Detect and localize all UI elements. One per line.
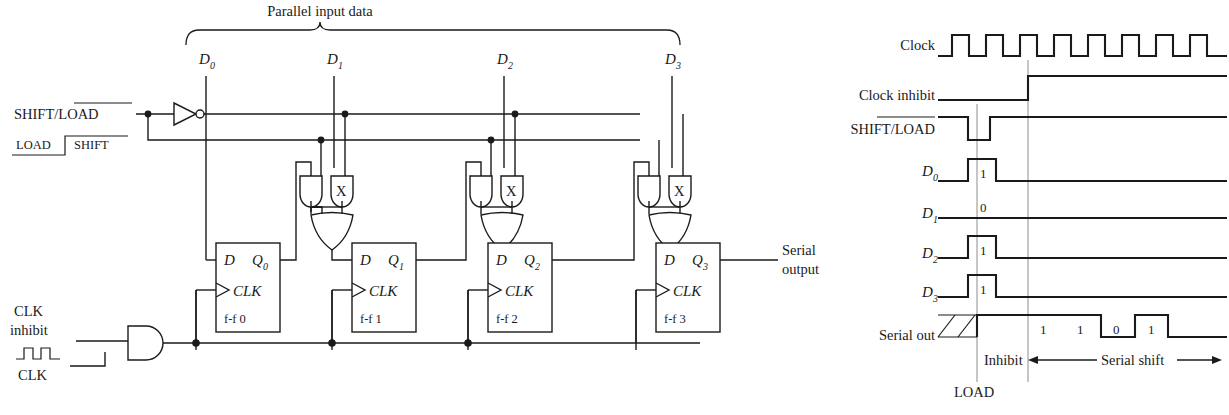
junction-dot-shift-1 <box>318 137 325 144</box>
mode-legend-load-label: LOAD <box>16 138 51 152</box>
timing-value-D3: 1 <box>980 282 987 297</box>
timing-label-D1-name: D <box>921 205 933 221</box>
flipflop-1-name: f-f 1 <box>360 312 382 326</box>
inverter-triangle <box>174 103 196 125</box>
timing-waveform-clock <box>938 35 1227 56</box>
flipflop-2-q-sub: 2 <box>535 261 540 272</box>
timing-label-D2-name: D <box>921 245 933 261</box>
timing-label-shift-load: SHIFT/LOAD <box>850 117 935 137</box>
flipflop-1-q-label: Q <box>388 252 399 268</box>
timing-value-D0: 1 <box>980 166 987 181</box>
timing-label-D1-sub: 1 <box>933 214 938 225</box>
flipflop-2-q-label: Q <box>524 252 535 268</box>
serial-shift-arrow-left-head-icon <box>1028 356 1038 364</box>
or-in-left-1-stub <box>311 207 322 212</box>
timing-label-shift-load-text: SHIFT/LOAD <box>850 121 935 137</box>
flipflop-3-q-label: Q <box>692 252 703 268</box>
timing-label-D2: D 2 <box>921 245 938 265</box>
serial-out-hatch-2 <box>958 315 975 337</box>
flipflop-1-clk-label: CLK <box>369 283 398 299</box>
serial-shift-annotation-label: Serial shift <box>1101 352 1164 368</box>
data-input-label-D2: D <box>496 51 508 67</box>
flipflop-3-q-sub: 3 <box>702 261 708 272</box>
flipflop-0-clk-label: CLK <box>233 283 262 299</box>
and-gate-load-3-glyph: X <box>674 183 685 199</box>
parallel-input-data-label: Parallel input data <box>267 3 373 19</box>
serial-output-label-line2: output <box>782 261 819 277</box>
shift-rail-wire <box>148 114 640 140</box>
serial-out-bit-1: 1 <box>1077 322 1084 337</box>
mode-legend-shift-label: SHIFT <box>74 138 109 152</box>
timing-label-D0: D 0 <box>921 163 938 183</box>
timing-label-serial-out: Serial out <box>879 327 935 343</box>
timing-waveform-serial-out <box>977 315 1227 337</box>
mode-legend: LOAD SHIFT <box>12 136 128 155</box>
timing-value-D2: 1 <box>980 243 987 258</box>
flipflop-2-name: f-f 2 <box>496 312 518 326</box>
junction-dot-load-2 <box>512 111 519 118</box>
serial-out-bit-2: 0 <box>1113 322 1120 337</box>
serial-shift-arrow-right-head-icon <box>1212 356 1222 364</box>
junction-dot-load-1 <box>342 111 349 118</box>
flipflop-3-d-label: D <box>663 252 675 268</box>
data-input-D3: D 3 <box>664 51 681 168</box>
timing-label-D0-sub: 0 <box>933 172 938 183</box>
serial-out-hatch-1 <box>938 315 955 337</box>
flipflop-0-q-sub: 0 <box>263 261 268 272</box>
data-input-D2: D 2 <box>496 51 513 168</box>
parallel-input-brace <box>186 22 680 45</box>
clk-inhibit-label-line2: inhibit <box>10 322 48 338</box>
flipflop-0-d-label: D <box>223 252 235 268</box>
flipflop-3: D Q 3 CLK f-f 3 <box>656 243 720 332</box>
and-gate-load-2-glyph: X <box>506 183 517 199</box>
serial-shift-annotation: Serial shift <box>1028 352 1222 368</box>
or-gate-1-body <box>311 213 353 251</box>
flipflop-2-d-label: D <box>495 252 507 268</box>
timing-label-clock: Clock <box>900 37 935 53</box>
load-marker-label: LOAD <box>954 384 994 400</box>
shift-load-input-label: SHIFT/LOAD <box>14 103 132 122</box>
clk-waveform-icon <box>16 348 60 359</box>
timing-label-D3-name: D <box>921 284 933 300</box>
flipflop-0-name: f-f 0 <box>224 312 246 326</box>
data-input-sub-D3: 3 <box>675 60 681 71</box>
clk-label: CLK <box>18 367 48 383</box>
inhibit-annotation-label: Inhibit <box>984 352 1023 368</box>
data-input-label-D0: D <box>198 51 210 67</box>
flipflop-2-clk-label: CLK <box>505 283 534 299</box>
flipflop-0-q-label: Q <box>252 252 263 268</box>
q2-feedback-wire <box>552 162 649 260</box>
figure-svg: Parallel input data D 0 D 1 D 2 D 3 SHIF… <box>0 0 1229 415</box>
and-gate-clock-body <box>128 326 163 360</box>
timing-label-D0-name: D <box>921 163 933 179</box>
timing-value-D1: 0 <box>980 200 987 215</box>
timing-waveform-shift-load <box>938 117 1227 140</box>
or1-to-ff1-wire <box>332 250 352 260</box>
timing-label-D1: D 1 <box>921 205 938 225</box>
clk-inhibit-label-line1: CLK <box>14 303 44 319</box>
timing-label-D2-sub: 2 <box>933 254 938 265</box>
timing-label-clock-inhibit: Clock inhibit <box>859 87 935 103</box>
serial-out-bit-3: 1 <box>1148 322 1155 337</box>
data-input-sub-D0: 0 <box>210 60 215 71</box>
timing-waveform-clock-inhibit <box>938 76 1227 100</box>
data-input-sub-D2: 2 <box>508 60 513 71</box>
data-input-D0: D 0 <box>198 51 215 260</box>
inverter-gate <box>174 103 204 125</box>
data-input-label-D1: D <box>326 51 338 67</box>
flipflop-3-name: f-f 3 <box>664 312 686 326</box>
shift-load-text: SHIFT/LOAD <box>14 106 99 122</box>
and-gate-clock <box>128 326 163 360</box>
flipflop-1-d-label: D <box>359 252 371 268</box>
serial-out-dont-care-region <box>938 315 977 337</box>
clk-input-wire <box>70 352 105 366</box>
data-input-D1: D 1 <box>326 51 343 168</box>
timing-label-D3: D 3 <box>921 284 938 304</box>
figure-root: Parallel input data D 0 D 1 D 2 D 3 SHIF… <box>0 0 1229 415</box>
flipflop-2: D Q 2 CLK f-f 2 <box>488 243 552 332</box>
timing-label-D3-sub: 3 <box>932 293 938 304</box>
flipflop-3-clk-label: CLK <box>673 283 702 299</box>
inverter-bubble-icon <box>196 110 204 118</box>
flipflop-1-q-sub: 1 <box>399 261 404 272</box>
serial-output-label-line1: Serial <box>782 242 816 258</box>
